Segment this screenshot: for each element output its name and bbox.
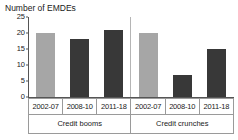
group-label-0: Credit booms xyxy=(29,115,131,134)
group-label-row: Credit boomsCredit crunches xyxy=(29,115,234,134)
plot-area: 0510152025 xyxy=(28,17,234,97)
bar-2011-18-booms xyxy=(104,30,123,97)
y-tick-label-5: 5 xyxy=(21,77,25,85)
bar-2002-07-crunches xyxy=(139,33,158,97)
bars-layer xyxy=(28,17,234,97)
y-tick-label-0: 0 xyxy=(21,93,25,101)
chart-title: Number of EMDEs xyxy=(5,3,76,13)
period-label-row: 2002-072008-102011-182002-072008-102011-… xyxy=(29,99,234,115)
y-tick-label-15: 15 xyxy=(17,45,25,53)
period-label-2: 2011-18 xyxy=(97,99,131,115)
y-tick-label-25: 25 xyxy=(17,13,25,21)
category-label-table: 2002-072008-102011-182002-072008-102011-… xyxy=(28,98,234,134)
y-tick-label-20: 20 xyxy=(17,29,25,37)
y-tick-label-10: 10 xyxy=(17,61,25,69)
bar-2011-18-crunches xyxy=(207,49,226,97)
chart-figure: Number of EMDEs 0510152025 2002-072008-1… xyxy=(0,0,238,140)
bar-2008-10-booms xyxy=(70,39,89,97)
period-label-1: 2008-10 xyxy=(63,99,97,115)
bar-2008-10-crunches xyxy=(173,75,192,97)
period-label-4: 2008-10 xyxy=(165,99,199,115)
period-label-5: 2011-18 xyxy=(199,99,233,115)
bar-2002-07-booms xyxy=(36,33,55,97)
period-label-3: 2002-07 xyxy=(131,99,165,115)
period-label-0: 2002-07 xyxy=(29,99,63,115)
group-label-1: Credit crunches xyxy=(131,115,234,134)
